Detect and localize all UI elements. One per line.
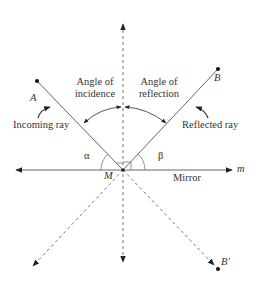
angle-of-incidence-label: Angle of incidence <box>66 76 124 100</box>
point-b-prime-label: B′ <box>221 256 230 268</box>
virtual-ray-left <box>33 170 123 266</box>
mirror-line-m-label: m <box>237 163 245 175</box>
angle-arc-reflection <box>125 107 166 123</box>
angle-of-incidence-line2: incidence <box>66 88 124 100</box>
reflection-diagram: Angle of incidence Angle of reflection A… <box>0 0 257 287</box>
angle-of-reflection-line2: reflection <box>130 88 188 100</box>
beta-label: β <box>158 150 163 162</box>
virtual-ray-b-prime <box>123 170 214 265</box>
beta-arc <box>138 154 145 170</box>
reflected-ray-label: Reflected ray <box>182 119 238 131</box>
angle-of-incidence-line1: Angle of <box>66 76 124 88</box>
point-a-label: A <box>30 92 36 104</box>
point-b <box>216 67 220 71</box>
angle-arc-incidence <box>84 107 121 123</box>
angle-of-reflection-label: Angle of reflection <box>130 76 188 100</box>
point-a <box>35 79 39 83</box>
alpha-label: α <box>84 150 90 162</box>
point-m <box>121 168 124 171</box>
angle-of-reflection-line1: Angle of <box>130 76 188 88</box>
reflected-ray-pointer-arrow <box>196 107 208 118</box>
incoming-ray-pointer-arrow <box>38 107 50 118</box>
point-b-label: B <box>214 72 220 84</box>
alpha-arc <box>101 154 108 170</box>
incoming-ray-label: Incoming ray <box>13 119 69 131</box>
point-b-prime <box>216 267 220 271</box>
diagram-canvas <box>0 0 257 287</box>
point-m-label: M <box>104 170 113 182</box>
mirror-label: Mirror <box>173 172 201 184</box>
